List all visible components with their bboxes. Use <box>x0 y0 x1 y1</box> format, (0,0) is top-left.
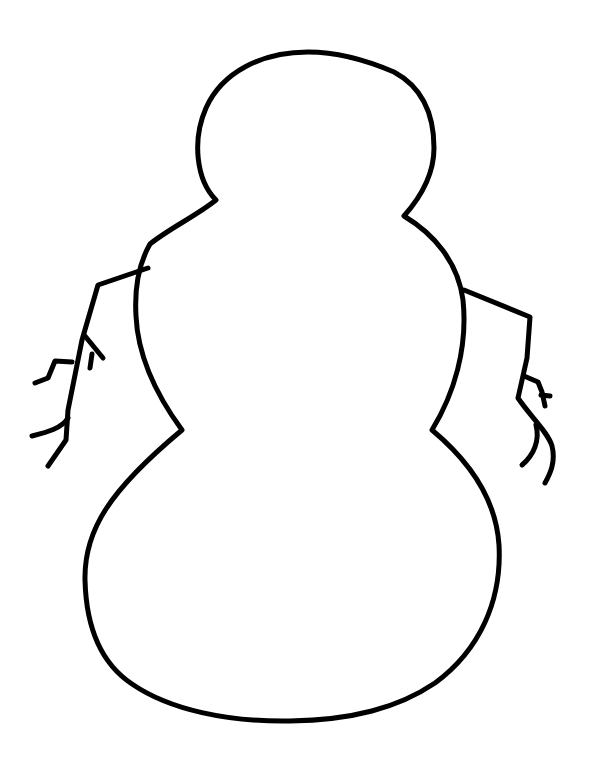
left-arm-twig <box>32 268 148 466</box>
right-arm-twig <box>464 290 553 483</box>
snowman-drawing <box>0 0 591 768</box>
drawing-canvas: Snowman outline <box>0 0 591 768</box>
snowman-body-outline <box>85 52 499 721</box>
